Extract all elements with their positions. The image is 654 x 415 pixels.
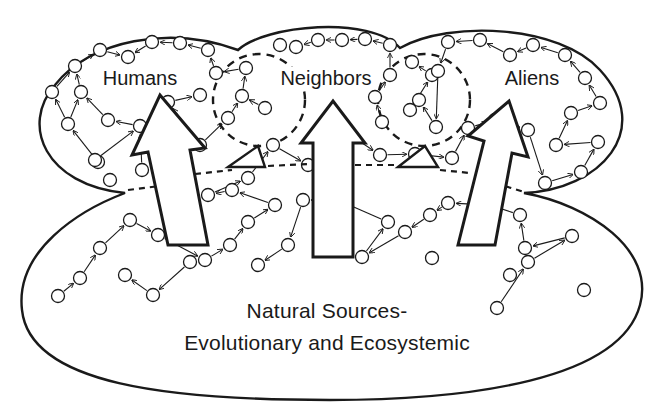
network-node [565,107,578,120]
network-node [312,34,325,47]
network-node [566,230,579,243]
network-node [290,41,303,54]
network-node [539,177,552,190]
network-node [46,86,59,99]
natural-sources-line2: Evolutionary and Ecosystemic [184,330,470,356]
network-node [74,272,87,285]
natural-sources-label: Natural Sources- Evolutionary and Ecosys… [184,298,470,356]
network-node [376,116,389,129]
network-node [382,216,395,229]
network-node [274,39,287,52]
network-node [202,189,215,202]
network-node [406,56,419,69]
network-node [75,86,88,99]
network-node [504,269,517,282]
network-node [259,102,272,115]
network-node [356,251,369,264]
diagram-canvas: Humans Neighbors Aliens Natural Sources-… [0,0,654,415]
network-node [442,36,455,49]
network-node [269,199,282,212]
network-node [514,209,527,222]
network-node [124,214,137,227]
network-node [504,49,517,62]
network-node [122,51,135,64]
network-node [224,239,237,252]
neighbors-label: Neighbors [277,67,374,89]
network-node [222,112,235,125]
network-node [550,139,563,152]
network-node [424,209,437,222]
network-node [369,91,382,104]
network-node [146,36,159,49]
network-node [236,90,249,103]
network-node [384,69,397,82]
network-node [94,44,107,57]
network-node [199,254,212,267]
network-node [69,60,82,73]
network-node [527,39,540,52]
network-node [374,149,387,162]
natural-sources-line1: Natural Sources- [184,298,470,324]
network-node [578,284,591,297]
network-node [119,269,132,282]
network-node [267,139,280,152]
network-node [399,226,412,239]
network-node [104,174,117,187]
network-node [474,34,487,47]
humans-label: Humans [100,67,180,89]
network-node [94,242,107,255]
network-node [491,302,504,315]
network-node [152,229,165,242]
network-node [52,290,65,303]
network-node [194,89,207,102]
network-node [594,97,607,110]
network-node [102,114,115,127]
network-node [579,72,592,85]
network-node [147,289,160,302]
network-node [226,184,239,197]
network-node [62,118,75,131]
network-node [432,65,445,78]
network-node [519,242,532,255]
network-node [359,33,372,46]
network-node [559,49,572,62]
network-node [184,256,197,269]
network-node [426,252,439,265]
network-node [210,67,223,80]
network-node [242,216,255,229]
network-node [442,197,455,210]
network-node [136,164,149,177]
network-node [575,166,588,179]
network-node [252,259,265,272]
network-node [242,172,255,185]
network-node [522,124,535,137]
network-node [240,62,253,75]
aliens-label: Aliens [502,67,562,89]
network-node [282,239,295,252]
network-node [336,34,349,47]
network-edge-arrow [387,154,406,155]
network-node [297,194,310,207]
network-node [522,256,535,269]
network-node [202,44,215,57]
network-node [446,152,459,165]
network-node [592,136,605,149]
network-node [413,94,426,107]
network-node [384,39,397,52]
network-node [430,121,443,134]
network-node [174,37,187,50]
network-node [89,154,102,167]
